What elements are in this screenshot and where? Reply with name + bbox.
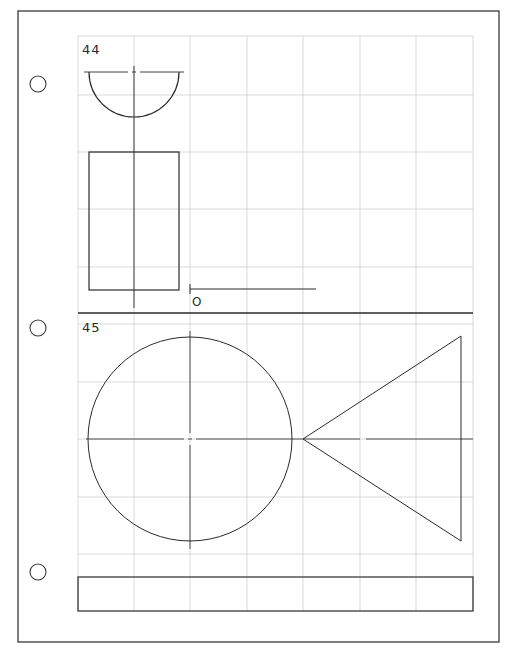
exercise-45: 45 xyxy=(82,320,473,549)
punch-hole-icon xyxy=(30,320,46,336)
exercise-44-label: 44 xyxy=(82,42,101,57)
punch-holes xyxy=(30,76,46,580)
drawing-sheet: 44 O 45 xyxy=(0,0,511,671)
punch-hole-icon xyxy=(30,564,46,580)
triangle-shape xyxy=(303,336,461,541)
exercise-44: 44 O xyxy=(82,42,316,309)
exercise-45-label: 45 xyxy=(82,320,101,335)
origin-label: O xyxy=(192,295,201,309)
grid xyxy=(78,36,473,611)
title-block xyxy=(78,577,473,611)
punch-hole-icon xyxy=(30,76,46,92)
